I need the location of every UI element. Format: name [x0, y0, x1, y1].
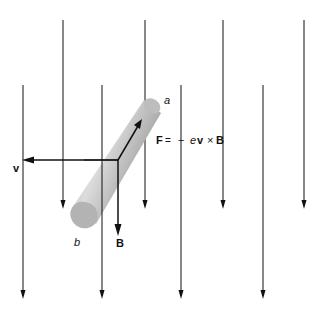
field-arrowhead	[21, 290, 26, 299]
force-equation: F = − e v × B	[156, 134, 224, 146]
force-eq-F: F	[156, 134, 163, 146]
field-vector-B-arrowhead	[115, 224, 122, 236]
field-arrowhead	[221, 200, 226, 209]
field-arrowhead	[261, 290, 266, 299]
label-field-B: B	[116, 237, 124, 249]
force-eq-v: v	[197, 134, 204, 146]
velocity-arrowhead	[22, 157, 34, 164]
diagram-canvas: a b v B F = − e v × B	[0, 0, 323, 313]
label-end-a: a	[164, 94, 170, 106]
field-arrowhead	[61, 200, 66, 209]
force-eq-B: B	[216, 134, 224, 146]
label-velocity: v	[13, 162, 20, 174]
force-eq-minus: −	[178, 134, 184, 146]
force-eq-cross: ×	[207, 134, 213, 146]
field-arrowhead	[179, 290, 184, 299]
label-end-b: b	[74, 236, 80, 248]
field-arrowhead	[143, 200, 148, 209]
force-eq-equals: =	[165, 135, 171, 146]
conducting-rod	[65, 95, 163, 234]
field-arrowhead	[100, 290, 105, 299]
force-eq-e: e	[190, 134, 196, 146]
field-arrowhead	[302, 200, 307, 209]
